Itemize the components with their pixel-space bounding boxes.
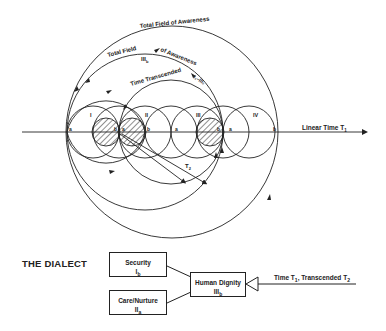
svg-text:I: I: [90, 112, 92, 118]
svg-text:IIIb: IIIb: [141, 56, 149, 64]
security-label: Security: [110, 258, 166, 267]
svg-text:a: a: [122, 126, 125, 132]
svg-text:II: II: [145, 112, 149, 118]
svg-text:b: b: [147, 126, 150, 132]
security-box: Security Ib: [109, 252, 167, 277]
svg-text:III: III: [196, 112, 201, 118]
circle-labels: I II III IV: [90, 112, 259, 118]
svg-text:Total Field: Total Field: [107, 45, 137, 58]
svg-text:b: b: [273, 126, 276, 132]
human-dignity-sub: IIIb: [191, 287, 245, 299]
care-nurture-label: Care/Nurture: [110, 296, 166, 305]
svg-text:Time Transcended: Time Transcended: [130, 67, 183, 87]
svg-text:Linear Time T1: Linear Time T1: [302, 124, 347, 133]
svg-text:T2: T2: [185, 163, 192, 171]
svg-text:Total Field of Awareness: Total Field of Awareness: [139, 16, 210, 29]
svg-text:IV: IV: [253, 112, 259, 118]
care-nurture-sub: IIa: [110, 305, 166, 317]
time-input-label: Time T1, Transcended T2: [274, 274, 350, 283]
svg-text:a: a: [175, 126, 178, 132]
human-dignity-box: Human Dignity IIIb: [190, 272, 246, 297]
svg-text:a: a: [69, 126, 72, 132]
svg-text:a: a: [229, 126, 232, 132]
svg-text:b: b: [217, 126, 220, 132]
care-nurture-box: Care/Nurture IIa: [109, 290, 167, 315]
arc-labels: Total Field of Awareness Total Field of …: [107, 16, 347, 171]
svg-text:b: b: [114, 126, 117, 132]
dialect-title: THE DIALECT: [22, 258, 87, 269]
svg-text:I₁–III₂: I₁–III₂: [192, 74, 206, 86]
human-dignity-label: Human Dignity: [191, 278, 245, 287]
security-sub: Ib: [110, 267, 166, 279]
